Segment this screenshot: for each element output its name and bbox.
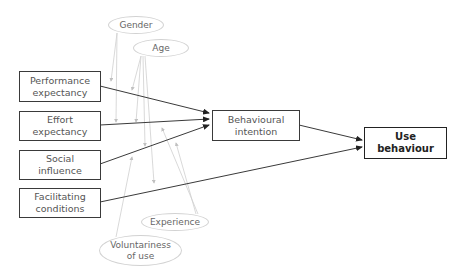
construct-facilitating-conditions: Facilitating conditions [19,188,101,218]
construct-label: Facilitating conditions [34,191,86,215]
construct-label: Use behaviour [377,131,434,155]
moderator-label: Age [152,43,169,54]
moderator-voluntariness: Voluntariness of use [99,235,182,266]
moderator-experience: Experience [141,213,209,231]
construct-behavioural-intention: Behavioural intention [212,110,300,141]
construct-label: Effort expectancy [33,114,88,138]
construct-social-influence: Social influence [19,150,101,180]
construct-performance-expectancy: Performance expectancy [19,71,101,102]
moderator-label: Gender [119,20,152,31]
moderator-age: Age [133,39,189,57]
construct-label: Social influence [38,153,82,177]
construct-effort-expectancy: Effort expectancy [19,111,101,141]
moderator-gender: Gender [108,16,164,34]
construct-use-behaviour: Use behaviour [364,127,447,159]
moderator-label: Voluntariness of use [110,240,171,262]
construct-label: Behavioural intention [228,114,285,138]
moderator-label: Experience [150,217,200,228]
construct-label: Performance expectancy [30,75,90,99]
